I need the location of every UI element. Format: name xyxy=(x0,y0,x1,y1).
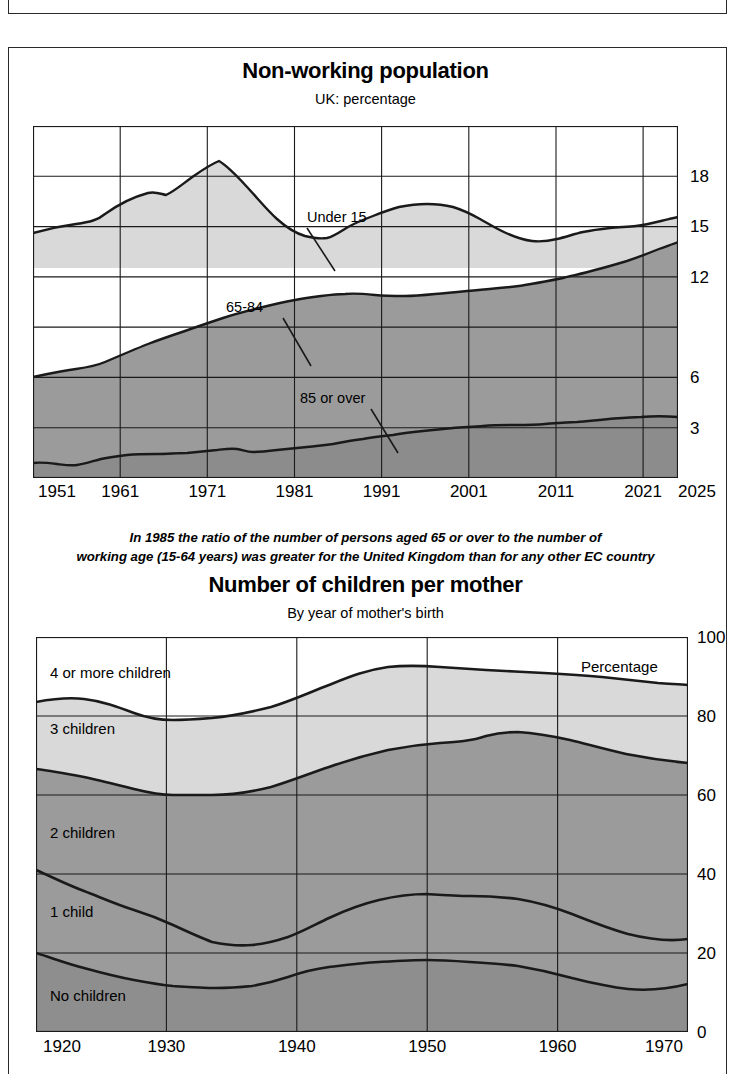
chart2-ytick-40: 40 xyxy=(697,866,716,883)
chart1-xtick-2011: 2011 xyxy=(538,483,575,500)
chart2-label-1-child: 1 child xyxy=(50,904,93,919)
chart1-ytick-12: 12 xyxy=(690,269,709,286)
chart2-xtick-1920: 1920 xyxy=(43,1038,81,1055)
mid-caption-line-2: working age (15-64 years) was greater fo… xyxy=(0,547,731,566)
chart1-xtick-1961: 1961 xyxy=(101,483,139,500)
chart1-plot: Under 15 65-84 85 or over xyxy=(33,126,678,478)
chart2-svg xyxy=(36,637,688,1032)
chart1-ytick-18: 18 xyxy=(690,168,709,185)
chart2-ytick-60: 60 xyxy=(697,787,716,804)
chart2-xtick-1970: 1970 xyxy=(645,1038,683,1055)
chart2-plot: 4 or more children 3 children 2 children… xyxy=(36,637,688,1032)
chart2-title: Number of children per mother xyxy=(0,572,731,598)
mid-caption-line-1: In 1985 the ratio of the number of perso… xyxy=(0,528,731,547)
chart1-xtick-2001: 2001 xyxy=(450,483,488,500)
chart1-label-85-or-over: 85 or over xyxy=(300,391,365,406)
top-page-frame xyxy=(8,0,727,14)
chart1-ytick-6: 6 xyxy=(690,369,699,386)
chart1-ytick-15: 15 xyxy=(690,218,709,235)
chart2-percentage-label: Percentage xyxy=(581,659,658,674)
chart2-label-no-children: No children xyxy=(50,988,126,1003)
chart1-label-65-84: 65-84 xyxy=(226,300,263,315)
chart2-label-3-children: 3 children xyxy=(50,721,115,736)
chart2-xtick-1930: 1930 xyxy=(147,1038,185,1055)
chart1-xtick-1981: 1981 xyxy=(276,483,314,500)
chart2-xtick-1960: 1960 xyxy=(539,1038,577,1055)
chart1-xtick-1951: 1951 xyxy=(38,483,76,500)
chart1-svg xyxy=(33,126,678,478)
chart2-label-4-or-more-children: 4 or more children xyxy=(50,665,171,680)
chart1-title: Non-working population xyxy=(0,58,731,84)
chart1-xtick-1971: 1971 xyxy=(188,483,226,500)
chart2-ytick-80: 80 xyxy=(697,708,716,725)
chart2-xtick-1940: 1940 xyxy=(278,1038,316,1055)
chart1-ytick-3: 3 xyxy=(690,420,699,437)
chart1-xtick-2021: 2021 xyxy=(624,483,662,500)
chart1-label-under-15: Under 15 xyxy=(307,210,367,225)
chart2-xtick-1950: 1950 xyxy=(408,1038,446,1055)
chart1-xtick-2025: 2025 xyxy=(678,483,716,500)
chart2-ytick-20: 20 xyxy=(697,945,716,962)
chart2-ytick-0: 0 xyxy=(697,1024,706,1041)
chart1-subtitle: UK: percentage xyxy=(0,91,731,107)
chart2-subtitle: By year of mother's birth xyxy=(0,605,731,621)
chart2-ytick-100: 100 xyxy=(697,629,725,646)
chart1-xtick-1991: 1991 xyxy=(363,483,401,500)
chart2-label-2-children: 2 children xyxy=(50,825,115,840)
